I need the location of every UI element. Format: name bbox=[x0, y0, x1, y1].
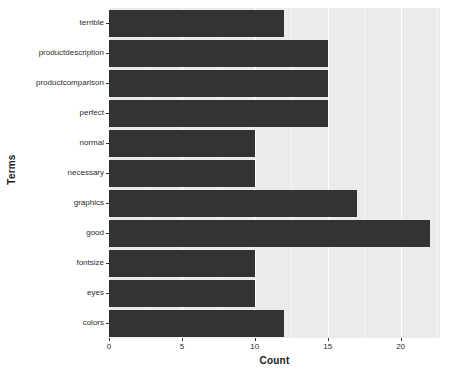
grid-line-major bbox=[328, 8, 329, 338]
bar bbox=[109, 160, 255, 187]
bar bbox=[109, 250, 255, 277]
y-axis-tick-label: good bbox=[86, 227, 104, 239]
y-axis-tick-label: normal bbox=[80, 137, 104, 149]
x-axis-tick-label: 20 bbox=[396, 342, 405, 351]
x-axis-tick-mark bbox=[182, 338, 183, 341]
bar-chart-figure: Terms terribleproductdescriptionproductc… bbox=[0, 0, 457, 378]
x-axis-tick-mark bbox=[255, 338, 256, 341]
x-axis-tick-label: 0 bbox=[107, 342, 111, 351]
bar bbox=[109, 10, 284, 37]
bar bbox=[109, 310, 284, 337]
x-axis-title: Count bbox=[109, 355, 440, 366]
y-axis-title: Terms bbox=[0, 0, 22, 338]
bar bbox=[109, 280, 255, 307]
y-axis-tick-label: productcomparison bbox=[36, 77, 104, 89]
bar bbox=[109, 40, 328, 67]
x-axis-tick-label: 5 bbox=[180, 342, 184, 351]
x-axis-ticks: 05101520 bbox=[109, 338, 440, 354]
y-axis-tick-label: colors bbox=[83, 317, 104, 329]
y-axis-title-text: Terms bbox=[6, 154, 17, 184]
x-axis-tick-mark bbox=[109, 338, 110, 341]
y-axis-tick-label: fontsize bbox=[76, 257, 104, 269]
y-axis-tick-label: necessary bbox=[68, 167, 104, 179]
grid-line-minor bbox=[364, 8, 365, 338]
y-axis-tick-label: terrible bbox=[80, 17, 104, 29]
grid-line-major bbox=[401, 8, 402, 338]
x-axis-tick-label: 15 bbox=[323, 342, 332, 351]
y-axis-tick-label: graphics bbox=[74, 197, 104, 209]
bar bbox=[109, 100, 328, 127]
bar bbox=[109, 130, 255, 157]
bar bbox=[109, 190, 357, 217]
x-axis-tick-label: 10 bbox=[250, 342, 259, 351]
y-axis-tick-labels: terribleproductdescriptionproductcompari… bbox=[22, 8, 104, 338]
bar bbox=[109, 220, 430, 247]
bar bbox=[109, 70, 328, 97]
y-axis-tick-label: perfect bbox=[80, 107, 104, 119]
plot-panel bbox=[109, 8, 440, 338]
x-axis-tick-mark bbox=[401, 338, 402, 341]
grid-line-minor bbox=[437, 8, 438, 338]
x-axis-tick-mark bbox=[328, 338, 329, 341]
y-axis-tick-label: productdescription bbox=[39, 47, 104, 59]
y-axis-tick-label: eyes bbox=[87, 287, 104, 299]
